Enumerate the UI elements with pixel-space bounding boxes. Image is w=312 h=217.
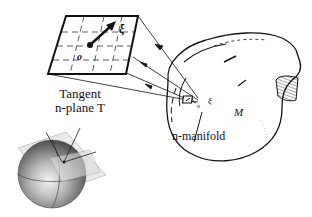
vector-xi-label: ξ [119, 22, 124, 37]
manifold-symbol: M [234, 106, 243, 118]
small-vector-xi-label: ξ [208, 96, 212, 106]
tangent-plane-panel [48, 16, 138, 74]
tangent-label-line2: n-plane T [52, 101, 108, 115]
small-origin-label: o [197, 103, 200, 109]
manifold-tangent-patch [183, 96, 193, 103]
manifold-tangent-diagram: Tangent n-plane T n-manifold M ξ o ξ o [0, 0, 312, 217]
tangent-label-line1: Tangent [52, 87, 108, 101]
tangent-plane-label: Tangent n-plane T [52, 87, 108, 115]
sphere-illustration [18, 128, 106, 208]
origin-label: o [77, 51, 82, 62]
diagram-canvas [0, 0, 312, 217]
manifold-label: n-manifold [172, 129, 225, 144]
